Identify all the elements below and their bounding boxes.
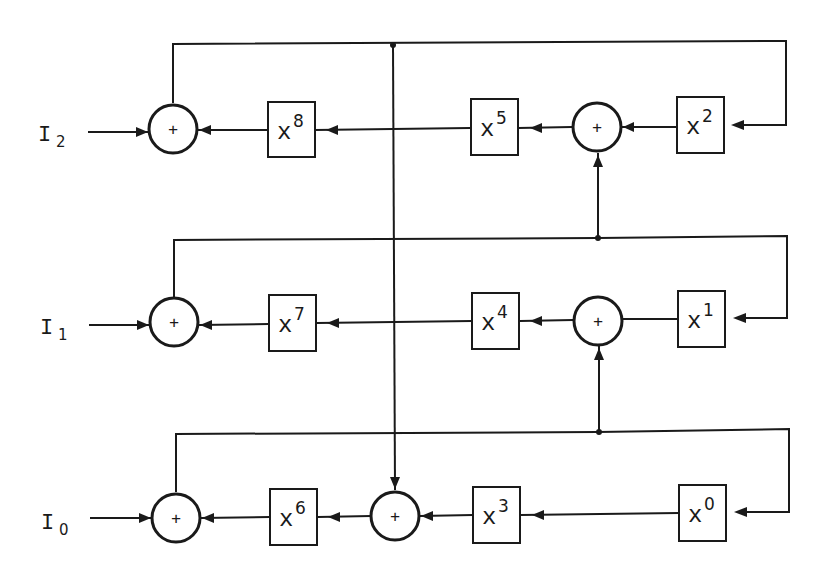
arrow-into-x1 xyxy=(733,313,746,323)
svg-text:1: 1 xyxy=(58,326,68,344)
arrow-input-I0 xyxy=(139,513,151,523)
svg-text:8: 8 xyxy=(293,111,304,131)
arrow-into-x3 xyxy=(532,510,544,520)
adder-row2-input: + xyxy=(149,105,197,153)
svg-text:2: 2 xyxy=(56,133,66,151)
block-x1: x 1 xyxy=(678,291,725,347)
arrow-into-x4 xyxy=(530,316,542,326)
svg-text:+: + xyxy=(169,313,179,332)
input-label-I1: I 1 xyxy=(40,316,68,344)
adder-row0-middle: + xyxy=(371,492,419,540)
input-label-I2: I 2 xyxy=(38,123,66,151)
svg-text:5: 5 xyxy=(496,108,507,128)
svg-text:x: x xyxy=(482,504,496,531)
svg-text:0: 0 xyxy=(59,521,69,539)
block-x7: x 7 xyxy=(269,295,316,351)
block-x6: x 6 xyxy=(270,489,317,545)
adder-row1-input: + xyxy=(150,298,198,346)
svg-text:2: 2 xyxy=(702,106,713,126)
arrow-into-x7 xyxy=(327,318,339,328)
adder-row2-middle: + xyxy=(573,103,621,151)
svg-text:I: I xyxy=(38,123,51,148)
arrow-up-into-adder2b xyxy=(593,155,603,167)
block-x3: x 3 xyxy=(473,487,520,543)
wire-top-to-adder0b xyxy=(393,45,395,490)
arrow-down-into-adder0b xyxy=(390,477,400,489)
svg-text:4: 4 xyxy=(497,302,508,322)
svg-text:x: x xyxy=(481,310,495,337)
wire-adder0b-to-x6 xyxy=(318,516,371,517)
arrow-into-x0 xyxy=(734,507,747,517)
arrow-into-x8 xyxy=(326,125,338,135)
input-label-I0: I 0 xyxy=(41,511,69,539)
svg-text:+: + xyxy=(593,312,603,331)
adder-row0-input: + xyxy=(152,494,200,542)
arrow-into-adder2a xyxy=(199,125,211,135)
arrow-into-x2 xyxy=(731,120,744,130)
arrow-input-I1 xyxy=(137,320,149,330)
svg-text:x: x xyxy=(687,308,701,335)
block-x4: x 4 xyxy=(472,293,519,349)
arrow-into-adder1a xyxy=(200,320,212,330)
svg-text:x: x xyxy=(277,119,291,146)
junction-dot-top xyxy=(390,42,396,48)
svg-text:0: 0 xyxy=(704,494,715,514)
svg-text:I: I xyxy=(41,511,54,536)
arrow-up-into-adder1b xyxy=(594,348,604,360)
svg-text:+: + xyxy=(390,507,400,526)
block-x2: x 2 xyxy=(677,97,724,153)
arrow-into-adder2b xyxy=(623,122,634,132)
svg-text:+: + xyxy=(168,120,178,139)
svg-text:+: + xyxy=(171,509,181,528)
wire-adder1b-to-x4 xyxy=(520,320,573,321)
arrow-into-adder0a xyxy=(202,513,214,523)
block-x5: x 5 xyxy=(471,99,518,155)
svg-text:x: x xyxy=(480,116,494,143)
svg-text:6: 6 xyxy=(295,498,306,518)
arrow-into-x5 xyxy=(530,123,542,133)
arrow-into-adder0b xyxy=(421,511,433,521)
wire-adder2b-to-x5 xyxy=(518,127,572,128)
junction-dot-row1 xyxy=(595,235,601,241)
block-x8: x 8 xyxy=(268,102,315,157)
junction-dot-row0 xyxy=(596,429,602,435)
svg-text:x: x xyxy=(279,506,293,533)
svg-text:I: I xyxy=(40,316,53,341)
svg-text:+: + xyxy=(592,118,602,137)
svg-text:7: 7 xyxy=(294,304,305,324)
svg-text:1: 1 xyxy=(703,300,714,320)
svg-text:x: x xyxy=(688,502,702,529)
adder-row1-middle: + xyxy=(574,297,622,345)
feedback-adder-diagram: + + + + + + x 8 x 5 x 2 x 7 xyxy=(0,0,830,576)
block-x0: x 0 xyxy=(679,485,726,541)
arrow-input-I2 xyxy=(136,127,148,137)
arrow-into-x6 xyxy=(328,512,340,522)
svg-text:x: x xyxy=(278,312,292,339)
wire-x0-to-x3 xyxy=(521,513,679,515)
svg-text:3: 3 xyxy=(498,496,509,516)
svg-text:x: x xyxy=(686,114,700,141)
